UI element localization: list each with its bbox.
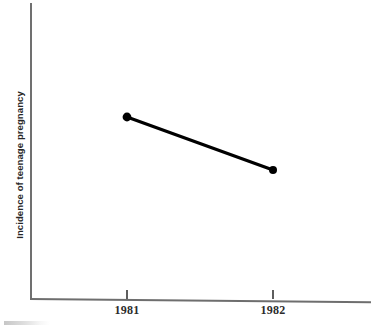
data-point-1982 bbox=[269, 166, 277, 174]
cropped-caption-remnant bbox=[4, 321, 50, 325]
series-line-segment bbox=[127, 117, 273, 170]
chart-figure: Incidence of teenage pregnancy 1981 1982 bbox=[0, 0, 373, 328]
data-series-layer bbox=[0, 0, 373, 328]
data-point-1981 bbox=[123, 113, 132, 122]
